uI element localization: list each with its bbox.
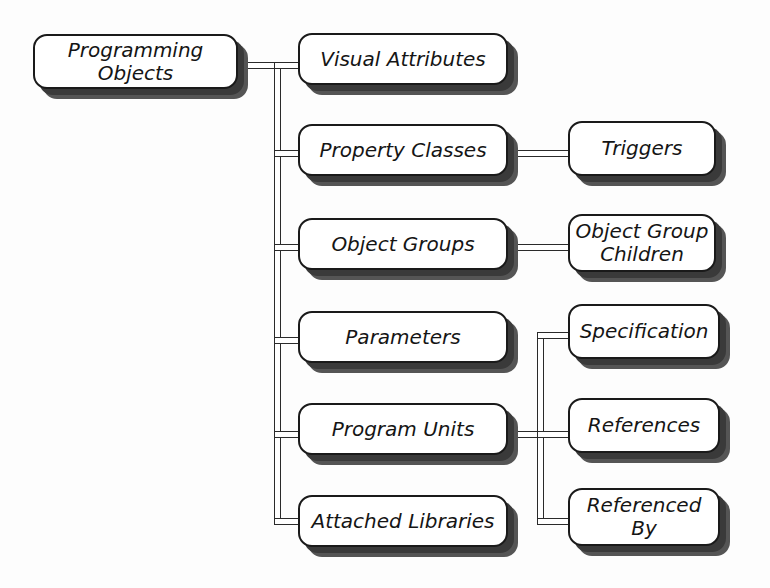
node-programming-objects[interactable]: Programming Objects [33,34,238,89]
connector-referenced-by [537,518,572,525]
node-label-line2: By [587,517,702,540]
node-references[interactable]: References [568,398,720,453]
connector-object-groups [274,244,300,251]
node-label: Property Classes [319,139,486,162]
connector-triggers [508,150,570,157]
node-label-line2: Children [576,243,709,266]
node-label: Specification [580,320,709,343]
connector-references [537,431,572,438]
node-object-group-children[interactable]: Object Group Children [568,214,716,272]
node-parameters[interactable]: Parameters [298,311,508,363]
node-label: Attached Libraries [311,510,494,533]
node-label: Programming Objects [35,39,236,85]
node-specification[interactable]: Specification [568,304,720,359]
node-label: Parameters [345,326,460,349]
node-label: Object Groups [331,233,474,256]
node-label: Visual Attributes [320,48,486,71]
connector-visual-attributes [274,62,300,69]
connector-object-group-children [508,244,570,251]
connector-parameters [274,337,300,344]
node-label-line1: Referenced [587,494,702,517]
node-label-line1: Object Group [576,220,709,243]
node-label: Program Units [332,418,475,441]
connector-property-classes [274,150,300,157]
connector-trunk-vertical [274,62,281,524]
connector-program-units-vertical [537,332,544,525]
diagram-canvas: Programming Objects Visual Attributes Pr… [0,0,770,588]
connector-attached-libraries [274,518,300,525]
node-referenced-by[interactable]: Referenced By [568,488,720,546]
node-label: References [588,414,700,437]
node-triggers[interactable]: Triggers [568,121,716,176]
connector-program-units [274,431,300,438]
node-attached-libraries[interactable]: Attached Libraries [298,495,508,547]
node-object-groups[interactable]: Object Groups [298,218,508,270]
node-property-classes[interactable]: Property Classes [298,124,508,176]
node-label: Triggers [602,137,683,160]
connector-specification [537,332,572,339]
node-program-units[interactable]: Program Units [298,403,508,455]
node-visual-attributes[interactable]: Visual Attributes [298,33,508,85]
